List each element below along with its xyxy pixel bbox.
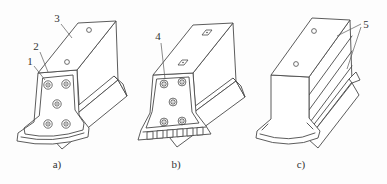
- callout-label-1: 1: [27, 55, 33, 67]
- panel-c-drawing: 5 c): [256, 18, 369, 171]
- machine-bed-variants-figure: 1 2 3 a): [0, 0, 387, 184]
- panel-caption-c: c): [297, 158, 306, 171]
- panel-caption-a: a): [53, 158, 62, 171]
- callout-label-3: 3: [54, 12, 60, 24]
- callout-label-4: 4: [155, 30, 161, 42]
- engineering-diagram-page: 1 2 3 a): [0, 0, 387, 184]
- panel-b-drawing: 4 b): [138, 23, 245, 171]
- callout-leader-3: [61, 24, 72, 38]
- panel-caption-b: b): [171, 158, 181, 171]
- callout-label-2: 2: [33, 40, 39, 52]
- panel-a-drawing: 1 2 3 a): [17, 12, 127, 171]
- callout-label-5: 5: [363, 18, 369, 30]
